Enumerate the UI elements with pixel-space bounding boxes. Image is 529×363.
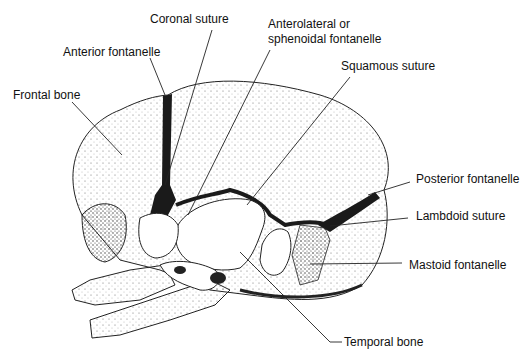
label-posterior-fontanelle: Posterior fontanelle bbox=[416, 172, 519, 186]
label-anterior-fontanelle: Anterior fontanelle bbox=[63, 45, 160, 59]
label-mastoid-fontanelle: Mastoid fontanelle bbox=[409, 258, 506, 272]
label-anterolateral-line1: Anterolateral or bbox=[268, 17, 350, 31]
label-frontal-bone: Frontal bone bbox=[13, 88, 80, 102]
label-anterolateral-line2: sphenoidal fontanelle bbox=[268, 32, 381, 46]
skull-diagram: Coronal suture Anterior fontanelle Front… bbox=[0, 0, 529, 363]
label-coronal-suture: Coronal suture bbox=[150, 12, 229, 26]
label-squamous-suture: Squamous suture bbox=[341, 59, 435, 73]
label-temporal-bone: Temporal bone bbox=[344, 335, 423, 349]
foramen bbox=[174, 266, 186, 274]
ear-canal bbox=[210, 272, 226, 284]
label-lambdoid-suture: Lambdoid suture bbox=[416, 209, 505, 223]
